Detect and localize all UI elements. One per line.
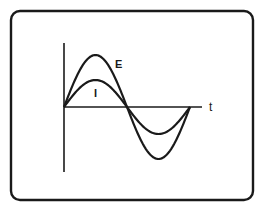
curve-label-e: E [115, 58, 122, 70]
waveform-diagram: E I t [0, 0, 260, 213]
curve-label-i: I [94, 87, 97, 99]
display-frame [11, 11, 253, 200]
